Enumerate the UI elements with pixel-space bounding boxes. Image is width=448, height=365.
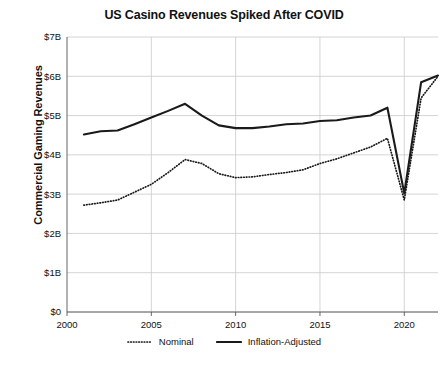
y-tick-label: $4B: [44, 149, 61, 160]
y-tick-label: $7B: [44, 31, 61, 42]
x-tick-label: 2010: [225, 319, 246, 330]
data-series-group: [84, 76, 438, 206]
series-line-nominal: [84, 76, 438, 205]
y-tick-label: $2B: [44, 228, 61, 239]
x-tick-label: 2005: [141, 319, 162, 330]
y-tick-label: $0: [50, 306, 61, 317]
legend-swatch-dotted-icon: [127, 338, 153, 346]
gridlines-group: [67, 37, 438, 312]
legend-label-nominal: Nominal: [159, 336, 194, 347]
y-tick-label: $6B: [44, 71, 61, 82]
legend-item-inflation-adjusted[interactable]: Inflation-Adjusted: [216, 336, 321, 347]
x-tick-label: 2015: [309, 319, 330, 330]
chart-legend: Nominal Inflation-Adjusted: [0, 336, 448, 347]
y-tick-label: $5B: [44, 110, 61, 121]
legend-swatch-solid-icon: [216, 338, 242, 346]
x-tick-label: 2000: [56, 319, 77, 330]
y-tick-label: $1B: [44, 267, 61, 278]
legend-item-nominal[interactable]: Nominal: [127, 336, 194, 347]
legend-label-inflation-adjusted: Inflation-Adjusted: [248, 336, 321, 347]
chart-figure: US Casino Revenues Spiked After COVID Co…: [0, 0, 448, 365]
plot-area: $0$1B$2B$3B$4B$5B$6B$7B 2000200520102015…: [0, 0, 448, 365]
x-tick-marks-group: [67, 312, 404, 316]
y-tick-label: $3B: [44, 189, 61, 200]
x-tick-label-group: 20002005201020152020: [56, 319, 414, 330]
x-tick-label: 2020: [394, 319, 415, 330]
axis-lines-group: [67, 37, 438, 312]
y-tick-label-group: $0$1B$2B$3B$4B$5B$6B$7B: [44, 31, 61, 317]
